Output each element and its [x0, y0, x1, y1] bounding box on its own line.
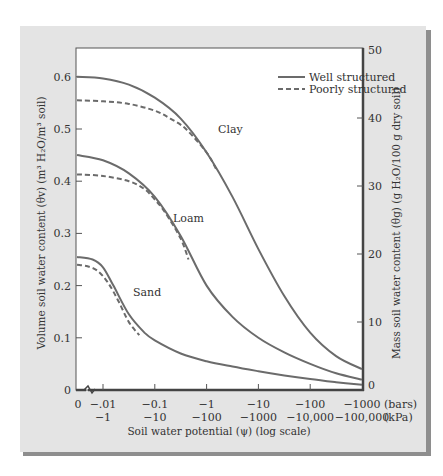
label-clay: Clay [218, 123, 243, 136]
left-tick-label: 0.2 [54, 280, 72, 293]
left-tick-label: 0.5 [54, 123, 72, 136]
left-tick-label: 0 [64, 384, 71, 397]
left-tick-label: 0.4 [54, 175, 72, 188]
right-tick-label: 20 [368, 248, 382, 261]
x-tick-label-kpa: −100,000 [335, 411, 390, 424]
right-tick-label: 40 [368, 112, 382, 125]
label-sand: Sand [133, 286, 161, 299]
x-tick-label-kpa: −10,000 [286, 411, 334, 424]
right-tick-label: 50 [368, 44, 382, 57]
x-tick-label-kpa: −1000 [240, 411, 277, 424]
right-tick-label: 10 [368, 316, 382, 329]
left-tick-label: 0.6 [54, 71, 72, 84]
right-tick-label: 0 [368, 379, 375, 392]
x-tick-label-kpa: −10 [143, 411, 166, 424]
x-axis-title: Soil water potential (ψ) (log scale) [127, 425, 310, 437]
x-tick-label-bars: −0.1 [141, 398, 168, 411]
soil-water-chart: 00.10.20.30.40.50.6 01020304050 0−.01−1−… [0, 0, 443, 476]
x-tick-label-bars: 0 [75, 398, 82, 411]
x-units-kpa: (kPa) [384, 411, 413, 424]
right-tick-label: 30 [368, 180, 382, 193]
left-tick-label: 0.3 [54, 227, 72, 240]
x-tick-label-kpa: −100 [191, 411, 221, 424]
left-tick-label: 0.1 [54, 332, 72, 345]
y-axis-right-title: Mass soil water content (θg) (g H₂O/100 … [390, 87, 402, 359]
y-axis-left-title: Volume soil water content (θv) (m³ H₂O/m… [35, 96, 47, 350]
x-tick-label-bars: −.01 [90, 398, 117, 411]
label-loam: Loam [173, 212, 204, 225]
x-tick-label-bars: −1 [198, 398, 214, 411]
x-tick-label-bars: −10 [247, 398, 270, 411]
x-tick-label-kpa: −1 [95, 411, 111, 424]
x-units-bars: (bars) [384, 398, 417, 411]
plot-area [76, 48, 363, 390]
x-tick-label-bars: −100 [295, 398, 325, 411]
x-tick-label-bars: −1000 [343, 398, 380, 411]
